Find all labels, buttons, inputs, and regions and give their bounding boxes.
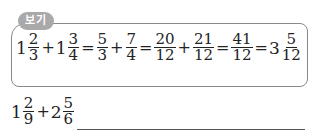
- fraction: 53: [96, 32, 110, 63]
- mixed-number: 134: [56, 32, 80, 63]
- whole-part: 1: [16, 38, 27, 58]
- fraction-part: 29: [23, 96, 35, 127]
- fraction-part: 512: [281, 32, 302, 63]
- plus-sign: +: [36, 102, 49, 121]
- mixed-number: 129: [11, 96, 35, 127]
- whole-part: 3: [269, 38, 280, 58]
- answer-blank[interactable]: [77, 129, 305, 130]
- problem-equation: 129+256: [11, 96, 75, 127]
- example-badge: 보기: [18, 12, 54, 30]
- mixed-number: 123: [16, 32, 40, 63]
- denominator: 12: [154, 48, 175, 63]
- denominator: 12: [231, 48, 252, 63]
- denominator: 12: [281, 48, 302, 63]
- denominator: 4: [126, 48, 138, 63]
- equals-sign: =: [216, 38, 229, 57]
- fraction: 2112: [192, 32, 215, 63]
- fraction-part: 2112: [193, 32, 214, 63]
- equals-sign: =: [139, 38, 152, 57]
- fraction-part: 34: [68, 32, 80, 63]
- fraction-part: 23: [28, 32, 40, 63]
- plus-sign: +: [41, 38, 54, 57]
- fraction-part: 56: [63, 96, 75, 127]
- plus-sign: +: [178, 38, 191, 57]
- fraction-part: 2012: [154, 32, 175, 63]
- fraction: 74: [125, 32, 139, 63]
- denominator: 9: [23, 112, 35, 127]
- whole-part: 2: [51, 102, 62, 122]
- equals-sign: =: [255, 38, 268, 57]
- denominator: 12: [193, 48, 214, 63]
- fraction-part: 74: [126, 32, 138, 63]
- fraction-part: 53: [97, 32, 109, 63]
- denominator: 3: [28, 48, 40, 63]
- equals-sign: =: [81, 38, 94, 57]
- whole-part: 1: [56, 38, 67, 58]
- fraction: 4112: [230, 32, 253, 63]
- whole-part: 1: [11, 102, 22, 122]
- denominator: 4: [68, 48, 80, 63]
- denominator: 3: [97, 48, 109, 63]
- plus-sign: +: [110, 38, 123, 57]
- mixed-number: 256: [51, 96, 75, 127]
- mixed-number: 3512: [269, 32, 303, 63]
- fraction-part: 4112: [231, 32, 252, 63]
- denominator: 6: [63, 112, 75, 127]
- example-equation: 123+134=53+74=2012+2112=4112=3512: [16, 32, 303, 63]
- fraction: 2012: [153, 32, 176, 63]
